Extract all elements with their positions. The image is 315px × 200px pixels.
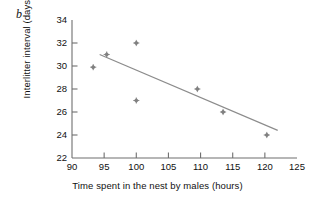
y-tick-label: 30 (56, 60, 67, 71)
regression-line (100, 55, 278, 131)
y-tick-label: 34 (56, 14, 67, 25)
data-point-marker (133, 40, 139, 46)
scatter-plot: 22242628303234 9095100105110115120125 (0, 0, 315, 200)
trend-line (100, 55, 278, 131)
y-tick-label: 22 (56, 152, 67, 163)
data-point-marker (90, 64, 96, 70)
y-tick-label: 24 (56, 129, 67, 140)
x-tick-label: 90 (67, 161, 78, 172)
x-tick-label: 115 (225, 161, 240, 172)
x-tick-label: 110 (193, 161, 208, 172)
data-point-marker (220, 109, 226, 115)
x-tick-label: 100 (128, 161, 144, 172)
x-tick-label: 105 (160, 161, 176, 172)
y-axis-ticks: 22242628303234 (56, 14, 77, 163)
x-tick-label: 125 (289, 161, 305, 172)
axes (72, 20, 297, 158)
x-tick-label: 95 (99, 161, 110, 172)
data-point-marker (194, 86, 200, 92)
data-point-marker (264, 132, 270, 138)
x-tick-label: 120 (257, 161, 273, 172)
y-tick-label: 26 (56, 106, 67, 117)
figure-panel: b Interlitter interval (days) Time spent… (0, 0, 315, 200)
x-axis-ticks: 9095100105110115120125 (67, 153, 305, 173)
y-tick-label: 32 (56, 37, 67, 48)
y-tick-label: 28 (56, 83, 67, 94)
data-point-marker (133, 97, 139, 103)
